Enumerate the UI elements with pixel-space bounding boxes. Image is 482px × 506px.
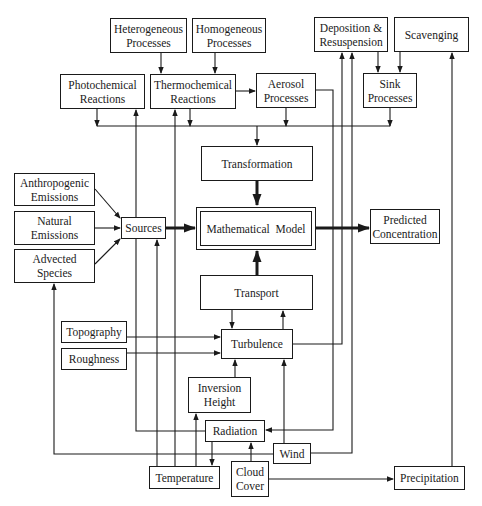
topography-label: Topography xyxy=(66,325,121,339)
wind-label: Wind xyxy=(279,447,304,461)
photochemical-reactions-box: PhotochemicalReactions xyxy=(60,74,145,109)
precipitation-label: Precipitation xyxy=(400,471,459,485)
inversion-height-label-1: Inversion xyxy=(198,381,241,395)
anthropogenic-emissions-label-1: Anthropogenic xyxy=(20,176,89,190)
thermochemical-reactions-label-2: Reactions xyxy=(154,92,232,106)
heterogeneous-processes-label-2: Processes xyxy=(114,36,183,50)
mathematical-model-label: Mathematical Model xyxy=(207,222,306,236)
cloud-cover-label-2: Cover xyxy=(236,479,264,493)
natural-emissions-label-2: Emissions xyxy=(31,228,78,242)
transformation-box: Transformation xyxy=(201,146,313,181)
aerosol-processes-box: AerosolProcesses xyxy=(256,73,316,108)
heterogeneous-processes-box: HeterogeneousProcesses xyxy=(110,18,187,53)
anthropogenic-emissions-label-2: Emissions xyxy=(20,190,89,204)
advected-species-label-1: Advected xyxy=(32,252,76,266)
radiation-box: Radiation xyxy=(205,420,265,442)
temperature-label: Temperature xyxy=(156,471,214,485)
advected-species-box: AdvectedSpecies xyxy=(14,249,95,283)
natural-emissions-label-1: Natural xyxy=(31,214,78,228)
precipitation-box: Precipitation xyxy=(394,466,465,490)
photochemical-reactions-label-1: Photochemical xyxy=(68,78,136,92)
predicted-concentration-box: PredictedConcentration xyxy=(370,209,440,244)
sources-box: Sources xyxy=(121,217,166,239)
topography-box: Topography xyxy=(61,321,127,343)
mathematical-model-box: Mathematical Model xyxy=(196,207,316,250)
aerosol-processes-label-2: Processes xyxy=(264,91,309,105)
roughness-label: Roughness xyxy=(69,352,119,366)
heterogeneous-processes-label-1: Heterogeneous xyxy=(114,22,183,36)
air-quality-model-diagram: HeterogeneousProcesses HomogeneousProces… xyxy=(0,0,482,506)
sources-label: Sources xyxy=(125,221,161,235)
sink-processes-box: SinkProcesses xyxy=(363,73,417,108)
aerosol-processes-label-1: Aerosol xyxy=(264,77,309,91)
turbulence-box: Turbulence xyxy=(221,329,293,359)
transport-label: Transport xyxy=(234,286,278,300)
homogeneous-processes-label-1: Homogeneous xyxy=(196,22,262,36)
cloud-cover-label-1: Cloud xyxy=(236,465,264,479)
advected-species-label-2: Species xyxy=(32,266,76,280)
predicted-concentration-label-2: Concentration xyxy=(372,227,437,241)
transformation-label: Transformation xyxy=(221,157,292,171)
sink-processes-label-2: Processes xyxy=(368,91,413,105)
radiation-label: Radiation xyxy=(213,424,258,438)
mathematical-model-inner-frame: Mathematical Model xyxy=(200,211,312,246)
inversion-height-box: InversionHeight xyxy=(188,377,251,413)
cloud-cover-box: CloudCover xyxy=(231,461,269,497)
thermochemical-reactions-box: ThermochemicalReactions xyxy=(150,74,236,109)
deposition-resuspension-box: Deposition &Resuspension xyxy=(314,17,388,52)
deposition-resuspension-label-1: Deposition & xyxy=(319,21,382,35)
homogeneous-processes-box: HomogeneousProcesses xyxy=(192,18,266,53)
sink-processes-label-1: Sink xyxy=(368,77,413,91)
photochemical-reactions-label-2: Reactions xyxy=(68,92,136,106)
scavenging-box: Scavenging xyxy=(394,17,469,52)
inversion-height-label-2: Height xyxy=(198,395,241,409)
roughness-box: Roughness xyxy=(61,348,127,370)
anthropogenic-emissions-box: AnthropogenicEmissions xyxy=(14,173,95,206)
thermochemical-reactions-label-1: Thermochemical xyxy=(154,78,232,92)
turbulence-label: Turbulence xyxy=(231,337,283,351)
scavenging-label: Scavenging xyxy=(405,28,459,42)
deposition-resuspension-label-2: Resuspension xyxy=(319,35,382,49)
temperature-box: Temperature xyxy=(149,466,220,489)
homogeneous-processes-label-2: Processes xyxy=(196,36,262,50)
transport-box: Transport xyxy=(200,275,313,310)
predicted-concentration-label-1: Predicted xyxy=(372,213,437,227)
wind-box: Wind xyxy=(273,443,311,464)
natural-emissions-box: NaturalEmissions xyxy=(14,211,95,245)
